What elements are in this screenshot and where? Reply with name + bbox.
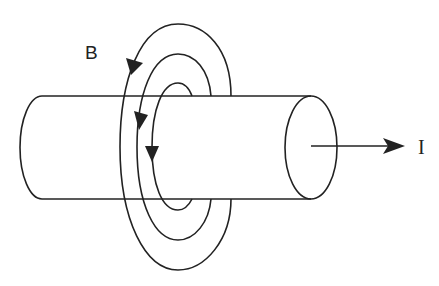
field-arrow-middle-icon xyxy=(134,111,148,130)
field-arrow-outer-icon xyxy=(126,58,143,75)
field-label: B xyxy=(85,42,98,63)
diagram-canvas: B I xyxy=(0,0,439,286)
conductor-cylinder xyxy=(20,96,337,199)
current-label: I xyxy=(418,136,425,158)
field-arrow-inner-icon xyxy=(145,146,159,162)
